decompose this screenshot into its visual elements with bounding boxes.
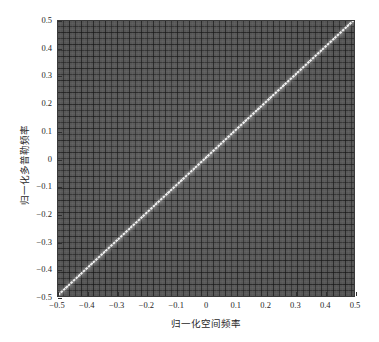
y-tick-mark bbox=[58, 298, 62, 299]
x-tick-mark bbox=[356, 292, 357, 296]
x-tick-label: 0.2 bbox=[260, 300, 271, 310]
figure-canvas: −0.5−0.4−0.3−0.2−0.100.10.20.30.40.5 −0.… bbox=[0, 0, 379, 342]
clutter-ridge bbox=[57, 20, 355, 297]
x-tick-label: −0.1 bbox=[168, 300, 183, 310]
clutter-ridge-line bbox=[57, 20, 355, 297]
y-axis-title: 归一化多普勒频率 bbox=[17, 95, 31, 235]
x-tick-label: 0.5 bbox=[350, 300, 361, 310]
x-tick-label: −0.2 bbox=[139, 300, 154, 310]
x-tick-label: −0.3 bbox=[109, 300, 124, 310]
x-tick-label: 0 bbox=[204, 300, 208, 310]
x-tick-label: −0.4 bbox=[79, 300, 94, 310]
x-tick-label: 0.4 bbox=[320, 300, 331, 310]
x-axis-title: 归一化空间频率 bbox=[57, 316, 355, 330]
heatmap-plot-area bbox=[57, 20, 355, 297]
x-tick-label: 0.3 bbox=[290, 300, 301, 310]
x-tick-label: 0.1 bbox=[230, 300, 241, 310]
